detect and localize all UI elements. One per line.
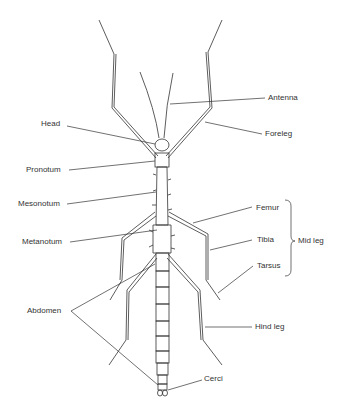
- label-cerci: Cerci: [204, 375, 223, 383]
- label-femur: Femur: [256, 204, 279, 212]
- label-hind-leg: Hind leg: [255, 323, 284, 331]
- label-mesonotum: Mesonotum: [18, 200, 60, 208]
- label-metanotum: Metanotum: [22, 238, 62, 246]
- label-antenna: Antenna: [268, 94, 298, 102]
- label-mid-leg: Mid leg: [298, 237, 324, 245]
- label-abdomen: Abdomen: [27, 307, 61, 315]
- label-tarsus: Tarsus: [257, 262, 281, 270]
- label-head: Head: [41, 120, 60, 128]
- label-pronotum: Pronotum: [26, 166, 61, 174]
- label-foreleg: Foreleg: [265, 130, 292, 138]
- label-tibia: Tibia: [257, 236, 274, 244]
